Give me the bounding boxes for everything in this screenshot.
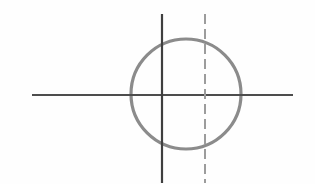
canvas-background (0, 0, 315, 184)
geometric-figure (0, 0, 315, 184)
figure-canvas (0, 0, 315, 184)
